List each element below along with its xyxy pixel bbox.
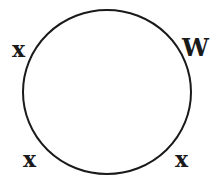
label-upper-left: x (12, 38, 25, 60)
circle-shape (23, 10, 191, 174)
label-lower-right: x (175, 148, 188, 170)
diagram-canvas: x W x x (0, 0, 219, 179)
label-lower-left: x (23, 148, 36, 170)
label-upper-right: W (182, 36, 209, 60)
